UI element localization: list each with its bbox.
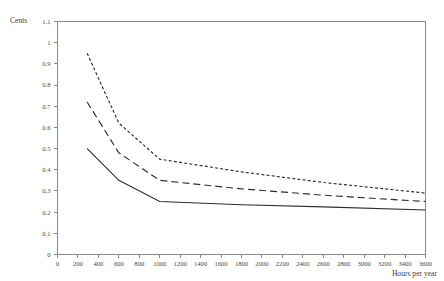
x-tick-label: 1200 [174, 260, 188, 267]
x-tick-label: 1400 [194, 260, 208, 267]
x-tick-label: 2600 [317, 260, 331, 267]
x-tick-label: 1600 [214, 260, 228, 267]
y-tick-label: 0.5 [42, 145, 51, 152]
y-axis-ticks: 00.10.20.30.40.50.60.70.80.911.1 [42, 18, 57, 258]
series-line-middle-curve [87, 102, 425, 202]
y-tick-label: 1 [47, 39, 50, 46]
plot-frame [58, 22, 426, 255]
y-tick-label: 0.6 [42, 124, 51, 131]
x-axis-title: Hours per year [392, 269, 438, 278]
x-tick-label: 2000 [255, 260, 269, 267]
chart-container: 00.10.20.30.40.50.60.70.80.911.1 0200400… [0, 0, 444, 281]
x-tick-label: 3600 [419, 260, 433, 267]
x-axis-ticks: 0200400600800100012001400160018002000220… [56, 255, 433, 268]
line-chart-plot: 00.10.20.30.40.50.60.70.80.911.1 0200400… [0, 0, 444, 281]
x-tick-label: 1000 [153, 260, 167, 267]
x-tick-label: 400 [93, 260, 104, 267]
y-tick-label: 0.1 [42, 230, 50, 237]
x-tick-label: 2800 [337, 260, 351, 267]
y-tick-label: 0.7 [42, 103, 51, 110]
y-tick-label: 0.9 [42, 60, 51, 67]
x-tick-label: 600 [114, 260, 125, 267]
x-tick-label: 0 [56, 260, 60, 267]
x-tick-label: 2400 [296, 260, 310, 267]
y-axis-title: Cents [10, 16, 27, 25]
series-line-lower-curve [87, 149, 425, 210]
x-tick-label: 3000 [358, 260, 372, 267]
data-series-group [87, 53, 425, 210]
plot-border-left-top [58, 22, 426, 255]
x-tick-label: 1800 [235, 260, 249, 267]
y-tick-label: 0.2 [42, 209, 50, 216]
series-line-upper-curve [87, 53, 425, 193]
y-tick-label: 1.1 [42, 18, 50, 25]
y-tick-label: 0.3 [42, 187, 51, 194]
y-tick-label: 0 [47, 251, 51, 258]
x-tick-label: 3400 [398, 260, 412, 267]
y-tick-label: 0.8 [42, 81, 51, 88]
x-tick-label: 800 [134, 260, 145, 267]
x-tick-label: 2200 [276, 260, 290, 267]
x-tick-label: 200 [73, 260, 84, 267]
x-tick-label: 3200 [378, 260, 392, 267]
y-tick-label: 0.4 [42, 166, 51, 173]
